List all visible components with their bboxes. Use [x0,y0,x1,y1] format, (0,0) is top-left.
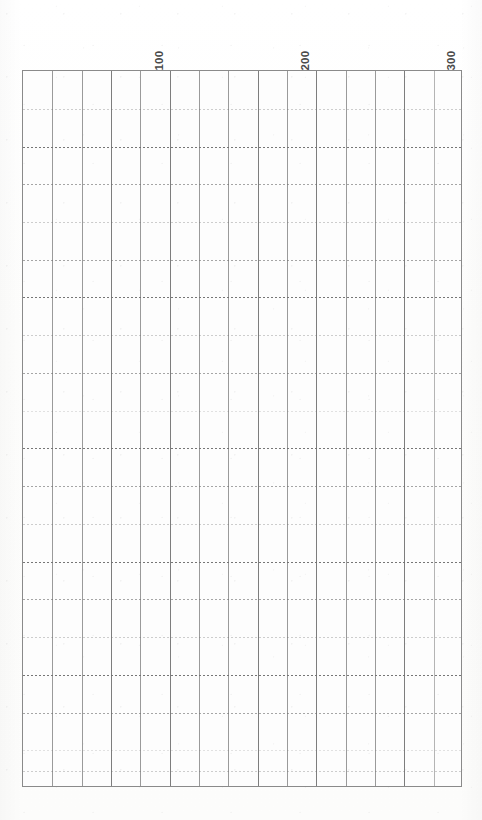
chart-plot-area [22,70,462,787]
x-axis-tick-label: 300 [446,50,458,70]
horizontal-gridline [23,297,461,298]
vertical-gridline [404,71,405,786]
horizontal-gridline [23,771,461,772]
vertical-gridline [199,71,200,786]
horizontal-gridline [23,486,461,487]
horizontal-gridline [23,184,461,185]
horizontal-gridline [23,411,461,412]
horizontal-gridline [23,373,461,374]
vertical-gridline [82,71,83,786]
vertical-gridline [170,71,171,786]
horizontal-gridline [23,147,461,148]
vertical-gridline [52,71,53,786]
vertical-gridline [228,71,229,786]
vertical-gridline [346,71,347,786]
horizontal-gridline [23,524,461,525]
horizontal-gridline [23,637,461,638]
horizontal-gridline [23,448,461,449]
horizontal-gridline [23,222,461,223]
horizontal-gridline [23,675,461,676]
vertical-gridline [287,71,288,786]
vertical-gridline [375,71,376,786]
horizontal-gridline [23,750,461,751]
vertical-gridline [140,71,141,786]
x-axis-tick-label: 200 [300,50,312,70]
horizontal-gridline [23,109,461,110]
horizontal-gridline [23,562,461,563]
horizontal-gridline [23,335,461,336]
horizontal-gridline [23,260,461,261]
x-axis-tick-label-row: 100200300 [0,36,482,70]
horizontal-gridline [23,713,461,714]
scanned-chart-page: 100200300 [0,0,482,820]
x-axis-tick-label: 100 [154,50,166,70]
vertical-gridline [111,71,112,786]
vertical-gridline [316,71,317,786]
vertical-gridline [258,71,259,786]
vertical-gridline [434,71,435,786]
horizontal-gridline [23,599,461,600]
